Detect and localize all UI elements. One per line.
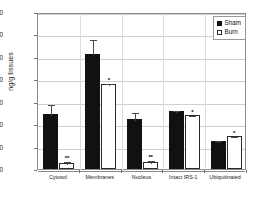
x-tick-label-ubiquitinated: Ubiquitinated (197, 174, 253, 180)
bar-sham-nucleus (127, 119, 142, 169)
bar-burn-membranes (101, 84, 116, 169)
y-tick-label-0: 0 (0, 167, 3, 173)
legend-swatch-sham-icon (217, 21, 222, 26)
error-cap-burn-0 (64, 162, 71, 163)
gridline-80 (38, 81, 245, 82)
x-tick-mark-0 (79, 170, 80, 173)
bar-burn-intact-irs-1 (185, 115, 200, 169)
error-bar-sham-2 (135, 113, 136, 121)
error-cap-sham-2 (132, 113, 139, 114)
y-tick-label-140: 140 (0, 10, 3, 16)
gridline-140 (38, 14, 245, 15)
legend-label-burn: Burn (225, 29, 238, 35)
error-cap-burn-2 (148, 161, 155, 162)
y-tick-label-20: 20 (0, 145, 3, 151)
error-cap-sham-1 (90, 40, 97, 41)
bar-sham-membranes (85, 54, 100, 170)
group-separator-1 (80, 14, 81, 171)
significance-marker-cytosol: ** (57, 155, 77, 161)
gridline-100 (38, 59, 245, 60)
error-cap-sham-4 (215, 141, 222, 142)
error-cap-burn-1 (106, 84, 113, 85)
error-bar-sham-0 (51, 105, 52, 116)
gridline-0 (38, 171, 245, 172)
bar-burn-ubiquitinated (227, 136, 242, 169)
y-axis-label: ng/g tissues (7, 29, 14, 115)
y-tick-label-60: 60 (0, 100, 3, 106)
legend-item-sham: Sham (217, 19, 241, 28)
significance-marker-nucleus: ** (141, 154, 161, 160)
x-tick-mark-2 (162, 170, 163, 173)
group-separator-3 (163, 14, 164, 171)
legend: Sham Burn (213, 16, 246, 40)
significance-marker-intact-irs-1: * (182, 109, 202, 115)
legend-label-sham: Sham (225, 20, 241, 26)
error-cap-burn-3 (189, 116, 196, 117)
error-bar-sham-1 (93, 40, 94, 56)
error-cap-sham-3 (173, 111, 180, 112)
legend-item-burn: Burn (217, 28, 241, 37)
group-separator-4 (205, 14, 206, 171)
x-tick-mark-3 (204, 170, 205, 173)
bar-sham-ubiquitinated (211, 141, 226, 169)
bar-sham-intact-irs-1 (169, 111, 184, 169)
error-cap-burn-4 (231, 137, 238, 138)
y-tick-label-80: 80 (0, 77, 3, 83)
y-tick-label-40: 40 (0, 122, 3, 128)
legend-swatch-burn-icon (217, 30, 222, 35)
significance-marker-ubiquitinated: * (224, 130, 244, 136)
group-separator-2 (122, 14, 123, 171)
y-tick-label-120: 120 (0, 32, 3, 38)
error-cap-sham-0 (48, 105, 55, 106)
x-tick-mark-4 (246, 170, 247, 173)
x-tick-mark-1 (121, 170, 122, 173)
gridline-60 (38, 104, 245, 105)
bar-chart: ng/g tissues 020406080100120140 ******* … (0, 0, 254, 201)
y-tick-mark-0 (34, 170, 37, 171)
y-tick-label-100: 100 (0, 55, 3, 61)
significance-marker-membranes: * (99, 77, 119, 83)
